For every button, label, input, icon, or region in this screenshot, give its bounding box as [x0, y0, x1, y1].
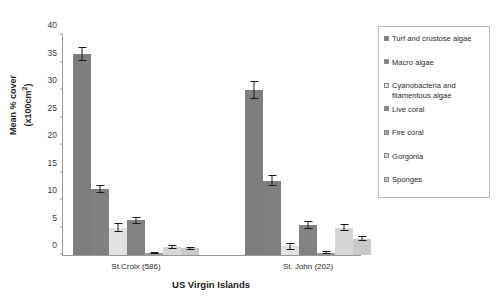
y-axis-tick-mark	[60, 61, 63, 62]
legend-item-label: Gorgonia	[392, 152, 423, 162]
bar-group-bars	[245, 35, 371, 255]
legend-item-label: Turf and crustose algae	[392, 34, 472, 44]
bar-slot	[245, 35, 263, 255]
plot-area: 0510152025303540St.Croix (586)St. John (…	[62, 35, 361, 256]
legend-swatch-icon	[384, 106, 389, 111]
bar-slot	[317, 35, 335, 255]
bar[interactable]	[353, 239, 371, 256]
y-axis-tick-label: 40	[29, 20, 63, 30]
bar[interactable]	[181, 248, 199, 255]
error-bar	[326, 251, 327, 254]
error-bar	[118, 223, 119, 233]
bar-slot	[353, 35, 371, 255]
chart-legend: Turf and crustose algaeMacro algaeCyanob…	[378, 26, 490, 198]
bar-slot	[263, 35, 281, 255]
error-bar	[254, 81, 255, 99]
y-axis-tick-mark	[60, 89, 63, 90]
y-axis-tick-label: 10	[29, 185, 63, 195]
legend-swatch-icon	[384, 130, 389, 135]
bar-slot	[109, 35, 127, 255]
bar[interactable]	[281, 246, 299, 255]
legend-item-label: Cyanobacteria and filamentous algae	[392, 81, 456, 100]
bar[interactable]	[91, 189, 109, 255]
y-axis-title-main: Mean % cover	[8, 75, 18, 135]
error-bar	[154, 252, 155, 254]
y-axis-tick-label: 25	[29, 103, 63, 113]
bar-slot	[145, 35, 163, 255]
y-axis-tick-mark	[60, 116, 63, 117]
legend-item-label: Fire coral	[392, 128, 424, 138]
error-bar	[190, 247, 191, 250]
bar[interactable]	[263, 181, 281, 255]
y-axis-tick-label: 30	[29, 75, 63, 85]
error-bar	[136, 217, 137, 225]
error-bar	[172, 245, 173, 249]
bar[interactable]	[163, 247, 181, 255]
x-axis-title: US Virgin Islands	[62, 279, 360, 290]
y-axis-tick-label: 20	[29, 130, 63, 140]
bar-slot	[127, 35, 145, 255]
bar[interactable]	[299, 225, 317, 255]
error-bar	[308, 221, 309, 229]
y-axis-tick-mark	[60, 254, 63, 255]
legend-item[interactable]: Cyanobacteria and filamentous algae	[384, 81, 485, 105]
legend-item-label: Macro algae	[392, 58, 434, 68]
legend-swatch-icon	[384, 177, 389, 182]
legend-swatch-icon	[384, 83, 389, 88]
bar[interactable]	[245, 90, 263, 255]
bar-slot	[281, 35, 299, 255]
y-axis-tick-mark	[60, 171, 63, 172]
bar[interactable]	[73, 54, 91, 255]
y-axis-tick-mark	[60, 34, 63, 35]
bar-slot	[91, 35, 109, 255]
legend-swatch-icon	[384, 153, 389, 158]
legend-item[interactable]: Turf and crustose algae	[384, 34, 485, 58]
y-axis-tick-mark	[60, 199, 63, 200]
bar-slot	[163, 35, 181, 255]
error-bar	[344, 224, 345, 231]
bar[interactable]	[335, 228, 353, 256]
bar-chart-figure: Mean % cover (x100cm2) 0510152025303540S…	[0, 0, 504, 301]
legend-item[interactable]: Sponges	[384, 175, 485, 199]
error-bar	[82, 47, 83, 61]
bar-group: St.Croix (586)	[73, 35, 199, 255]
bar[interactable]	[127, 220, 145, 255]
y-axis-tick-label: 35	[29, 48, 63, 58]
bar-group-bars	[73, 35, 199, 255]
bar[interactable]	[317, 253, 335, 255]
y-axis-tick-label: 15	[29, 158, 63, 168]
x-axis-group-label: St.Croix (586)	[73, 262, 199, 271]
legend-item[interactable]: Gorgonia	[384, 152, 485, 176]
bar[interactable]	[109, 228, 127, 256]
error-bar	[290, 243, 291, 250]
error-bar	[362, 236, 363, 241]
error-bar	[100, 185, 101, 194]
bar-slot	[181, 35, 199, 255]
bar[interactable]	[145, 253, 163, 255]
x-axis-group-label: St. John (202)	[245, 262, 371, 271]
y-axis-tick-mark	[60, 144, 63, 145]
y-axis-tick-mark	[60, 226, 63, 227]
legend-item-label: Sponges	[392, 175, 422, 185]
legend-item[interactable]: Fire coral	[384, 128, 485, 152]
bar-slot	[299, 35, 317, 255]
legend-item[interactable]: Macro algae	[384, 58, 485, 82]
legend-item-label: Live coral	[392, 105, 425, 115]
legend-item[interactable]: Live coral	[384, 105, 485, 129]
bar-group: St. John (202)	[245, 35, 371, 255]
bar-slot	[73, 35, 91, 255]
error-bar	[272, 175, 273, 186]
legend-swatch-icon	[384, 36, 389, 41]
y-axis-tick-label: 5	[29, 213, 63, 223]
y-axis-tick-label: 0	[29, 240, 63, 250]
bar-slot	[335, 35, 353, 255]
legend-swatch-icon	[384, 59, 389, 64]
